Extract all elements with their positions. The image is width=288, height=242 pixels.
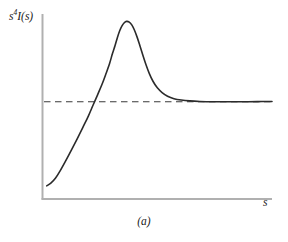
data-curve (47, 21, 272, 185)
figure-caption: (a) (0, 216, 288, 228)
y-axis-label: s4I(s) (9, 9, 33, 22)
y-axis-label-exponent: 4 (13, 8, 17, 17)
plot-area (0, 0, 288, 242)
figure-panel: s4I(s) s (a) (0, 0, 288, 242)
x-axis-label: s (263, 197, 267, 209)
